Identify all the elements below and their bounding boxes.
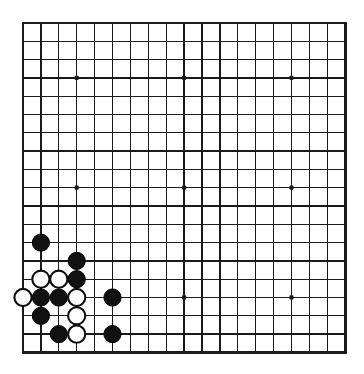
- star-point: [74, 76, 79, 81]
- black-stone-b7[interactable]: [32, 234, 49, 251]
- black-stone-c2[interactable]: [50, 326, 67, 343]
- star-point: [289, 76, 294, 81]
- star-point: [182, 185, 187, 190]
- black-stone-f2[interactable]: [104, 326, 121, 343]
- star-point: [74, 185, 79, 190]
- black-stone-d5[interactable]: [68, 271, 85, 288]
- go-board[interactable]: [0, 0, 364, 374]
- star-point: [289, 185, 294, 190]
- black-stone-b4[interactable]: [32, 289, 49, 306]
- star-point: [289, 295, 294, 300]
- black-stone-b3[interactable]: [32, 307, 49, 324]
- white-stone-b5[interactable]: [32, 271, 49, 288]
- white-stone-c5[interactable]: [50, 271, 67, 288]
- white-stone-d3[interactable]: [68, 307, 85, 324]
- black-stone-f4[interactable]: [104, 289, 121, 306]
- black-stone-c4[interactable]: [50, 289, 67, 306]
- star-point: [182, 76, 187, 81]
- star-point: [182, 295, 187, 300]
- white-stone-d2[interactable]: [68, 326, 85, 343]
- black-stone-d6[interactable]: [68, 252, 85, 269]
- go-diagram-page: [0, 0, 364, 374]
- white-stone-d4[interactable]: [68, 289, 85, 306]
- go-board-svg[interactable]: [0, 0, 364, 374]
- white-stone-a4[interactable]: [14, 289, 31, 306]
